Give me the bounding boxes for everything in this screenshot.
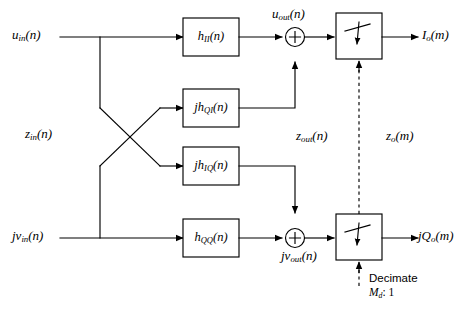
decimate-caption-line2: Md: 1 bbox=[369, 286, 394, 298]
filter-label-jhIQ: jhIQ(n) bbox=[183, 158, 239, 173]
block-diagram-canvas: uin(n) jvin(n) zin(n) hII(n) jhQI(n) jhI… bbox=[0, 0, 463, 315]
signal-label-z-out: zout(n) bbox=[296, 128, 328, 144]
filter-label-hQQ: hQQ(n) bbox=[183, 230, 239, 245]
decimator-box-top bbox=[336, 13, 382, 59]
output-label-jQ-o: jQo(m) bbox=[418, 228, 453, 244]
filter-label-hII: hII(n) bbox=[183, 29, 239, 44]
decimate-caption-line1: Decimate bbox=[369, 272, 418, 284]
wire-jhIQ-to-adder-bottom bbox=[239, 166, 295, 213]
signal-label-z-o: zo(m) bbox=[386, 128, 414, 144]
input-label-u-in: uin(n) bbox=[12, 27, 41, 43]
signal-label-z-in: zin(n) bbox=[25, 126, 52, 142]
signal-label-u-out: uout(n) bbox=[272, 6, 305, 22]
input-label-jv-in: jvin(n) bbox=[12, 228, 43, 244]
output-label-I-o: Io(m) bbox=[422, 27, 449, 43]
wire-jhQI-to-adder-top bbox=[239, 62, 295, 108]
decimate-caption: Decimate Md: 1 bbox=[369, 271, 418, 303]
decimator-box-bottom bbox=[336, 214, 382, 260]
signal-label-jv-out: jvout(n) bbox=[281, 248, 317, 264]
filter-label-jhQI: jhQI(n) bbox=[183, 100, 239, 115]
